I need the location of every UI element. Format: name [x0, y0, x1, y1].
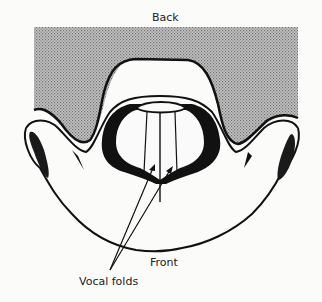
right-spur [244, 152, 252, 168]
label-front: Front [150, 256, 179, 269]
arrow-right-shaft [110, 170, 170, 270]
left-spur [72, 150, 84, 170]
arytenoid-cap [136, 102, 186, 113]
left-cartilage [29, 132, 49, 178]
larynx-diagram: Back Front Vocal folds [0, 0, 322, 302]
arrow-left-shaft [110, 168, 153, 270]
right-cartilage [277, 134, 295, 180]
label-back: Back [152, 11, 179, 24]
label-vocal-folds: Vocal folds [79, 275, 138, 288]
